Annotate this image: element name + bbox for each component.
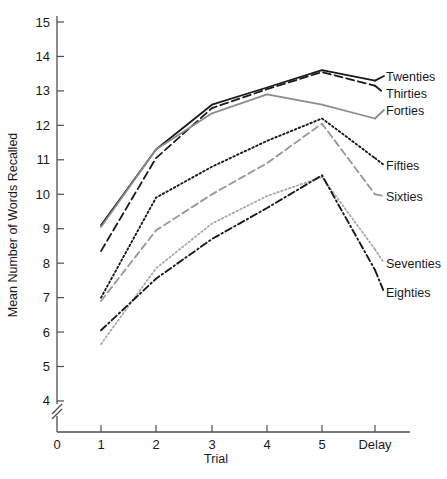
y-tick-label: 11: [37, 152, 51, 167]
legend-leader-thirties: [375, 86, 384, 93]
legend-label-seventies: Seventies: [386, 257, 441, 271]
legend-leader-twenties: [375, 76, 384, 81]
y-tick-label: 7: [43, 290, 50, 305]
y-tick-label: 14: [36, 49, 50, 64]
legend-label-sixties: Sixties: [386, 190, 423, 204]
y-axis-title: Mean Number of Words Recalled: [6, 133, 20, 318]
legend-label-forties: Forties: [386, 104, 424, 118]
legend-leader-eighties: [375, 270, 384, 292]
x-tick-label: 3: [208, 437, 215, 452]
legend-label-fifties: Fifties: [386, 159, 419, 173]
series-line-sixties: [101, 124, 375, 301]
series-line-eighties: [101, 175, 375, 330]
series-line-fifties: [101, 119, 375, 298]
legend-leader-forties: [375, 110, 384, 119]
legend-label-thirties: Thirties: [386, 87, 427, 101]
x-tick-label: Delay: [358, 437, 392, 452]
y-tick-label: 13: [36, 83, 50, 98]
x-axis-ticks: 012345Delay: [53, 425, 392, 452]
y-tick-label: 4: [43, 393, 50, 408]
y-tick-label: 10: [36, 187, 50, 202]
series-lines: [101, 70, 384, 344]
series-line-seventies: [101, 177, 375, 344]
x-tick-label: 5: [318, 437, 325, 452]
series-line-twenties: [101, 70, 375, 225]
x-tick-label: 0: [53, 437, 60, 452]
x-tick-label: 2: [152, 437, 159, 452]
y-tick-label: 9: [43, 221, 50, 236]
y-tick-label: 8: [43, 256, 50, 271]
legend-leader-sixties: [375, 194, 384, 196]
x-tick-label: 1: [97, 437, 104, 452]
series-legend: TwentiesThirtiesFortiesFiftiesSixtiesSev…: [386, 70, 441, 300]
series-line-forties: [101, 94, 375, 227]
legend-leader-seventies: [375, 249, 384, 263]
legend-label-twenties: Twenties: [386, 70, 435, 84]
x-tick-label: 4: [263, 437, 270, 452]
chart-container: 456789101112131415 012345Delay TwentiesT…: [0, 0, 447, 479]
y-tick-label: 6: [43, 325, 50, 340]
legend-label-eighties: Eighties: [386, 286, 430, 300]
y-axis-ticks: 456789101112131415: [36, 15, 64, 409]
y-tick-label: 12: [36, 118, 50, 133]
line-chart: 456789101112131415 012345Delay TwentiesT…: [0, 0, 447, 479]
y-tick-label: 5: [43, 359, 50, 374]
legend-leader-fifties: [375, 158, 384, 165]
y-tick-label: 15: [36, 15, 50, 30]
x-axis-title: Trial: [204, 452, 228, 466]
